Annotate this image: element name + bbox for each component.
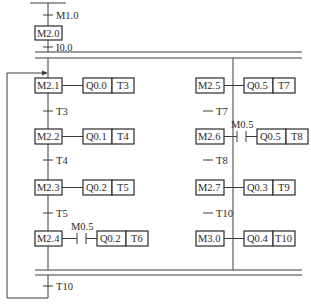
transition-label-t10-final: T10 xyxy=(56,281,73,292)
step-label-m2-2: M2.2 xyxy=(37,131,59,142)
transition-label-t4: T4 xyxy=(56,155,68,166)
action-label: Q0.2 xyxy=(100,233,121,244)
transition-label-t10-right: T10 xyxy=(216,208,233,219)
step-label-m2-7: M2.7 xyxy=(198,182,220,193)
transition-label-m1-0: M1.0 xyxy=(56,10,78,21)
transition-label-i0-0: I0.0 xyxy=(56,42,73,53)
action-label: T8 xyxy=(291,131,303,142)
step-label-m3-0: M3.0 xyxy=(198,233,220,244)
action-label: T5 xyxy=(117,182,129,193)
step-label-m2-0: M2.0 xyxy=(37,28,59,39)
loop-arrow-icon xyxy=(42,71,48,76)
transition-label-t7: T7 xyxy=(216,106,228,117)
transition-label-t5: T5 xyxy=(56,208,68,219)
step-label-m2-5: M2.5 xyxy=(198,80,220,91)
action-label: Q0.0 xyxy=(86,80,107,91)
action-label: T6 xyxy=(131,233,143,244)
step-label-m2-4: M2.4 xyxy=(37,233,60,244)
action-label: Q0.2 xyxy=(86,182,107,193)
transition-label-t3: T3 xyxy=(56,106,68,117)
action-label: Q0.1 xyxy=(86,131,107,142)
action-label: T9 xyxy=(278,182,290,193)
action-label: Q0.5 xyxy=(260,131,281,142)
step-label-m2-1: M2.1 xyxy=(37,80,59,91)
action-label: T7 xyxy=(278,80,290,91)
transition-label-t8: T8 xyxy=(216,155,228,166)
action-label: T10 xyxy=(275,233,292,244)
step-label-m2-3: M2.3 xyxy=(37,182,59,193)
action-label: Q0.3 xyxy=(247,182,268,193)
action-label: T4 xyxy=(117,131,129,142)
action-label: Q0.5 xyxy=(247,80,268,91)
contact-label-m0-5: M0.5 xyxy=(231,119,253,130)
contact-label-m0-5: M0.5 xyxy=(71,221,93,232)
step-label-m2-6: M2.6 xyxy=(198,131,220,142)
action-label: Q0.4 xyxy=(247,233,268,244)
action-label: T3 xyxy=(117,80,129,91)
sfc-diagram: M1.0 M2.0 I0.0 M2.1 Q0.0 T3 T3 M2.2 Q0.1… xyxy=(0,0,311,304)
